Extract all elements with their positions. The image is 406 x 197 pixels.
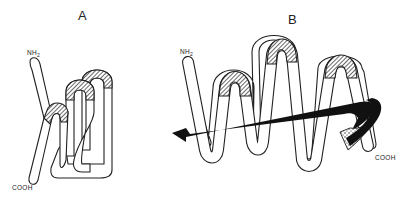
panel-a-cooh-label: COOH — [12, 184, 33, 191]
panel-a: A NH2 COOH — [12, 8, 112, 191]
panel-b-label: B — [288, 12, 297, 27]
panel-b: B NH2 COOH — [172, 12, 396, 168]
panel-b-cooh-label: COOH — [375, 154, 396, 161]
svg-text:NH2: NH2 — [27, 49, 40, 58]
panel-b-nh2-subscript: 2 — [190, 51, 193, 57]
diagram-canvas: A NH2 COOH B NH2 COOH — [0, 0, 406, 197]
svg-text:NH2: NH2 — [180, 48, 193, 57]
panel-a-nh2-subscript: 2 — [37, 52, 40, 58]
panel-a-nh2-label: NH — [27, 49, 37, 56]
panel-a-label: A — [78, 8, 87, 23]
panel-a-turn-2-hatch — [66, 80, 94, 100]
panel-b-nh2-label: NH — [180, 48, 190, 55]
